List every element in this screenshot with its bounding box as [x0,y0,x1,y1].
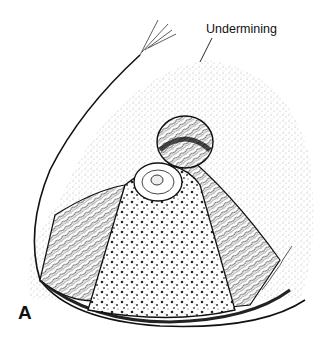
undermining-label: Undermining [206,22,277,36]
surgical-illustration [0,0,328,352]
panel-letter: A [18,302,32,324]
dome [157,116,213,168]
undermining-leader-line [200,38,212,62]
